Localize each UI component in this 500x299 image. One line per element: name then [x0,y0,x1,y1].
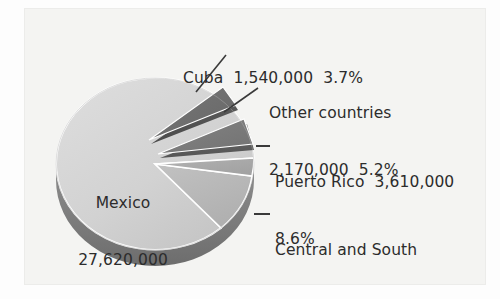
pie-label-central-and-south-america: Central and South America 6,910,000 16.5… [275,203,429,299]
leader-dash-central-and-south-america [254,213,270,215]
pie-label-other-countries-name: Other countries [269,104,399,123]
pie-label-mexico-name: Mexico [58,194,188,213]
pie-chart-figure: Mexico 27,620,000 66.0% Cuba 1,540,000 3… [0,0,500,299]
pie-label-central-and-south-america-name1: Central and South [275,241,429,260]
pie-label-mexico: Mexico 27,620,000 66.0% [58,156,188,299]
pie-label-mexico-value: 27,620,000 [58,251,188,270]
leader-dash-puerto-rico [256,145,270,147]
pie-label-puerto-rico-name: Puerto Rico 3,610,000 [275,173,454,192]
